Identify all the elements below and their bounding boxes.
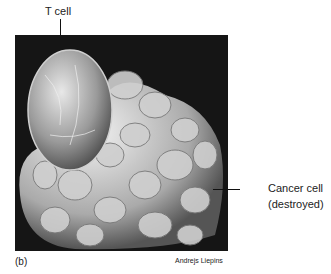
t-cell-label: T cell — [45, 5, 71, 18]
cancer-cell-leader-line — [213, 189, 240, 190]
panel-label: (b) — [15, 256, 27, 267]
cancer-cell-status-label: (destroyed) — [268, 198, 324, 211]
micrograph-illustration — [15, 35, 228, 251]
cancer-cell-label: Cancer cell — [268, 182, 323, 195]
photo-credit: Andrejs Liepins — [175, 257, 223, 264]
micrograph-image — [15, 35, 228, 251]
